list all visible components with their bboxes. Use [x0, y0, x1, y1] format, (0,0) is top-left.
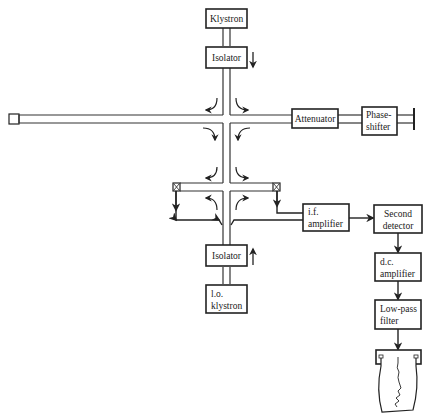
isolator-bottom-label: Isolator — [212, 251, 242, 261]
attenuator-label: Attenuator — [295, 114, 336, 124]
sample-cavity — [9, 114, 19, 124]
dc-amplifier-label-2: amplifier — [380, 269, 416, 279]
second-detector-label-2: detector — [383, 221, 414, 231]
lo-klystron-label-1: l.o. — [211, 289, 223, 299]
block-diagram: Klystron Isolator Attenuator Phase- shif… — [0, 0, 433, 416]
second-detector-label-1: Second — [384, 209, 412, 219]
phase-shifter-block: Phase- shifter — [362, 107, 397, 135]
if-amplifier-label-1: i.f. — [308, 207, 319, 217]
lowpass-filter-block: Low-pass filter — [375, 300, 421, 329]
isolator-bottom-block: Isolator — [206, 245, 247, 266]
isolator-top-label: Isolator — [212, 53, 242, 63]
second-detector-block: Second detector — [374, 205, 422, 233]
crystal-detector-right — [273, 183, 280, 191]
if-amplifier-label-2: amplifier — [308, 219, 344, 229]
lo-klystron-label-2: klystron — [211, 301, 242, 311]
klystron-block: Klystron — [206, 9, 247, 28]
dc-amplifier-block: d.c. amplifier — [375, 253, 421, 281]
power-flow-arrows-lower — [206, 167, 248, 210]
isolator-top-block: Isolator — [206, 47, 247, 68]
lowpass-filter-label-2: filter — [380, 316, 399, 326]
phase-shifter-label-2: shifter — [366, 122, 391, 132]
horizontal-waveguide-lower — [180, 183, 273, 191]
phase-shifter-label-1: Phase- — [366, 110, 391, 120]
if-amplifier-block: i.f. amplifier — [303, 204, 349, 231]
chart-recorder — [376, 350, 421, 412]
lowpass-filter-label-1: Low-pass — [380, 304, 417, 314]
attenuator-block: Attenuator — [292, 109, 338, 128]
detector-lead-right — [277, 191, 303, 213]
detector-lead-left — [176, 191, 222, 225]
horizontal-waveguide-upper — [10, 115, 414, 123]
crystal-detector-left — [173, 183, 180, 191]
klystron-label: Klystron — [210, 14, 244, 24]
power-flow-arrows-upper — [203, 98, 250, 140]
lo-klystron-block: l.o. klystron — [206, 285, 247, 313]
dc-amplifier-label-1: d.c. — [380, 257, 394, 267]
